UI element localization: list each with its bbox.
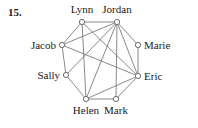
graph-vertex-lynn	[79, 19, 84, 24]
graph-edge	[84, 24, 136, 74]
graph-edge	[88, 77, 135, 98]
graph-vertex-sally	[63, 72, 68, 77]
vertex-label-sally: Sally	[37, 69, 60, 81]
graph-vertex-jordan	[114, 19, 119, 24]
vertex-label-jordan: Jordan	[102, 3, 132, 15]
vertex-label-helen: Helen	[73, 104, 100, 116]
graph-edge	[64, 46, 135, 75]
vertex-label-lynn: Lynn	[71, 3, 94, 15]
graph-edge	[62, 48, 65, 73]
graph-vertex-jacob	[59, 42, 64, 47]
graph-vertex-eric	[135, 73, 140, 78]
vertex-label-jacob: Jacob	[31, 39, 57, 51]
graph-diagram: LynnJordanMarieEricMarkHelenSallyJacob	[0, 0, 198, 128]
graph-edge	[68, 77, 85, 97]
vertex-label-eric: Eric	[144, 70, 162, 82]
vertex-label-marie: Marie	[144, 39, 170, 51]
graph-edges	[62, 22, 138, 99]
graph-vertex-mark	[113, 96, 118, 101]
graph-edge	[87, 24, 116, 96]
vertex-label-mark: Mark	[104, 104, 128, 116]
graph-vertex-marie	[135, 42, 140, 47]
graph-edge	[64, 24, 81, 43]
figure-container: 15. LynnJordanMarieEricMarkHelenSallyJac…	[0, 0, 198, 128]
graph-vertex-helen	[83, 96, 88, 101]
